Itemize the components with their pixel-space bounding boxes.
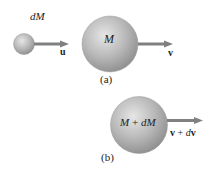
panel-a-caption: (a)	[100, 74, 112, 85]
velocity-v-part: v	[170, 127, 175, 138]
velocity-v-plus-dv-label: v + dv	[170, 128, 196, 138]
velocity-v-label: v	[168, 48, 173, 58]
small-mass-sphere	[14, 34, 35, 55]
small-mass-label: dM	[30, 11, 45, 22]
combined-mass-label: M + dM	[120, 117, 156, 128]
velocity-v-plus-dv-arrow-icon	[167, 117, 203, 124]
panel-b-caption: (b)	[101, 152, 114, 163]
large-mass-label: M	[104, 33, 114, 45]
velocity-dv-part: v	[191, 127, 196, 138]
combined-mass-dM: dM	[141, 116, 156, 128]
velocity-u-label: u	[60, 47, 66, 57]
combined-mass-M: M	[120, 116, 129, 128]
combined-mass-plus: +	[132, 116, 138, 128]
velocity-plus: +	[178, 127, 184, 138]
